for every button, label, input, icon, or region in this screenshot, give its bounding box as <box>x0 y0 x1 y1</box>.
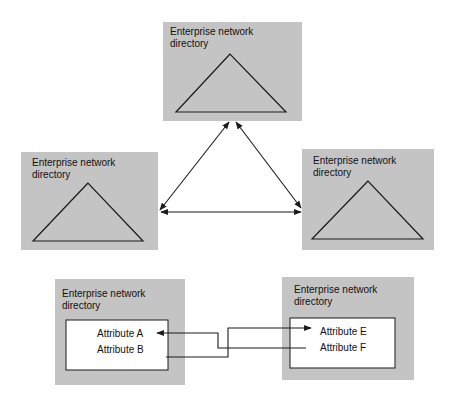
directory-right: Enterprise network directory <box>302 149 434 250</box>
directory-label-line1: Enterprise network <box>32 157 116 168</box>
attribute-f: Attribute F <box>320 342 366 353</box>
attribute-e: Attribute E <box>320 326 367 337</box>
directory-left: Enterprise network directory <box>21 152 158 250</box>
directory-label-line2: directory <box>313 167 351 178</box>
directory-label-line2: directory <box>62 300 100 311</box>
directory-label-line1: Enterprise network <box>294 284 378 295</box>
directory-replication-diagram: Enterprise network directory Enterprise … <box>0 0 450 399</box>
bidirectional-arrow-top-right <box>236 122 301 208</box>
directory-bottom-left: Enterprise network directory Attribute A… <box>55 279 185 385</box>
directory-label-line1: Enterprise network <box>170 26 254 37</box>
bidirectional-arrow-top-left <box>160 122 229 210</box>
directory-label-line1: Enterprise network <box>62 288 146 299</box>
directory-label-line2: directory <box>32 169 70 180</box>
directory-label-line1: Enterprise network <box>313 155 397 166</box>
directory-label-line2: directory <box>294 296 332 307</box>
directory-top: Enterprise network directory <box>163 22 302 121</box>
attribute-a: Attribute A <box>97 328 143 339</box>
directory-label-line2: directory <box>170 38 208 49</box>
attribute-b: Attribute B <box>97 344 144 355</box>
